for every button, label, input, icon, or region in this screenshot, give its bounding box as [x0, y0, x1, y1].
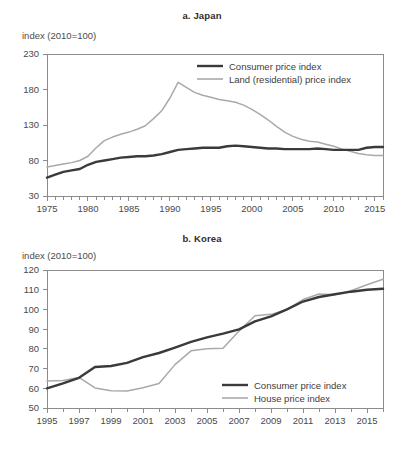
chart-legend: Consumer price indexLand (residential) p… — [197, 61, 351, 85]
x-tick-label: 2003 — [164, 415, 185, 426]
x-tick-label: 2005 — [282, 203, 303, 214]
x-tick-label: 2007 — [228, 415, 249, 426]
legend-label: Consumer price index — [254, 380, 347, 391]
chart-svg-japan: 3080130180230197519801985199019952000200… — [0, 0, 404, 225]
y-tick-label: 70 — [28, 363, 39, 374]
legend-label: Land (residential) price index — [229, 74, 351, 85]
x-tick-label: 2000 — [241, 203, 262, 214]
y-tick-label: 60 — [28, 383, 39, 394]
x-tick-label: 1985 — [118, 203, 139, 214]
series-line-asset — [47, 82, 383, 166]
y-tick-label: 180 — [23, 84, 39, 95]
x-tick-label: 1990 — [159, 203, 180, 214]
series-line-cpi — [47, 289, 383, 389]
x-tick-label: 2011 — [293, 415, 313, 426]
y-tick-label: 80 — [28, 155, 39, 166]
y-tick-label: 90 — [28, 324, 39, 335]
chart-svg-korea: 5060708090100110120199519971999200120032… — [0, 225, 404, 450]
x-tick-label: 1999 — [100, 415, 121, 426]
legend-label: House price index — [254, 393, 330, 404]
legend-label: Consumer price index — [229, 61, 322, 72]
x-tick-label: 2009 — [260, 415, 281, 426]
chart-legend: Consumer price indexHouse price index — [222, 380, 347, 404]
y-tick-label: 50 — [28, 402, 39, 413]
x-tick-label: 1995 — [200, 203, 221, 214]
chart-panel-korea: b. Korea index (2010=100) 50607080901001… — [0, 225, 404, 450]
y-tick-label: 110 — [24, 284, 39, 295]
x-tick-label: 1995 — [36, 415, 57, 426]
y-tick-label: 30 — [28, 190, 39, 201]
x-tick-label: 2015 — [364, 203, 385, 214]
x-tick-label: 2010 — [323, 203, 344, 214]
y-tick-label: 80 — [28, 343, 39, 354]
chart-panel-japan: a. Japan index (2010=100) 30801301802301… — [0, 0, 404, 225]
x-tick-label: 2001 — [132, 415, 153, 426]
y-tick-label: 120 — [23, 264, 39, 275]
x-tick-label: 1980 — [77, 203, 98, 214]
x-tick-label: 1997 — [68, 415, 89, 426]
y-tick-label: 100 — [23, 304, 39, 315]
y-tick-label: 130 — [23, 119, 39, 130]
x-tick-label: 2005 — [196, 415, 217, 426]
y-tick-label: 230 — [23, 48, 39, 59]
x-tick-label: 1975 — [36, 203, 57, 214]
x-tick-label: 2013 — [324, 415, 345, 426]
x-tick-label: 2015 — [356, 415, 377, 426]
series-line-cpi — [47, 146, 383, 178]
